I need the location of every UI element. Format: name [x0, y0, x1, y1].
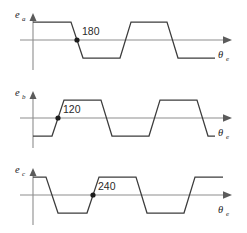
marker-dot-b: [55, 115, 60, 120]
x-axis-label-b: θ: [218, 127, 223, 138]
y-axis-label-a: e: [15, 9, 20, 20]
x-axis-arrow-c: [223, 191, 232, 199]
y-axis-arrow-a: [30, 13, 37, 21]
waveform-figure: e a θ e 180 e b θ e 120: [0, 0, 247, 233]
x-axis-sublabel-b: e: [226, 133, 229, 141]
marker-dot-c: [90, 192, 95, 197]
x-axis-label-a: θ: [218, 49, 223, 60]
y-axis-sublabel-a: a: [22, 15, 26, 23]
y-axis-arrow-b: [30, 91, 37, 99]
plot-a-canvas: e a θ e 180: [0, 0, 247, 78]
x-axis-label-c: θ: [218, 204, 223, 215]
angle-annotation-240: 240: [98, 180, 116, 192]
x-axis-sublabel-c: e: [226, 210, 229, 218]
plot-phase-b: e b θ e 120: [0, 78, 247, 156]
angle-annotation-120: 120: [63, 103, 81, 115]
plot-c-canvas: e c θ e 240: [0, 155, 247, 233]
angle-annotation-180: 180: [82, 25, 100, 37]
marker-dot-a: [74, 37, 79, 42]
plot-b-canvas: e b θ e 120: [0, 78, 247, 156]
x-axis-arrow-a: [223, 36, 232, 44]
plot-phase-c: e c θ e 240: [0, 155, 247, 233]
plot-phase-a: e a θ e 180: [0, 0, 247, 78]
y-axis-sublabel-c: c: [22, 170, 26, 178]
y-axis-arrow-c: [30, 168, 37, 176]
x-axis-sublabel-a: e: [226, 55, 229, 63]
y-axis-label-c: e: [15, 164, 20, 175]
y-axis-label-b: e: [15, 87, 20, 98]
x-axis-arrow-b: [223, 114, 232, 122]
y-axis-sublabel-b: b: [22, 93, 26, 101]
